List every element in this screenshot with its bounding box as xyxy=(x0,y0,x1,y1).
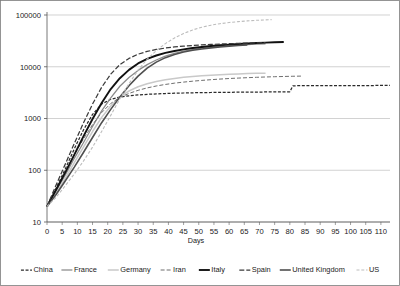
x-tick-label: 90 xyxy=(316,227,324,236)
x-tick-label: 55 xyxy=(210,227,218,236)
x-tick-label: 20 xyxy=(103,227,111,236)
legend-label: US xyxy=(369,265,379,274)
x-tick-label: 70 xyxy=(255,227,263,236)
legend-item-spain: Spain xyxy=(239,265,270,274)
x-axis-ticks-group: 0510152025303540455055606570758085909510… xyxy=(45,222,387,236)
legend-item-us: US xyxy=(356,265,379,274)
x-tick-label: 0 xyxy=(45,227,49,236)
y-axis-ticks-group: 10000010000100010010 xyxy=(16,11,47,227)
series-line-china xyxy=(47,85,390,206)
legend-label: China xyxy=(33,265,53,274)
x-tick-label: 40 xyxy=(164,227,172,236)
x-tick-label: 45 xyxy=(179,227,187,236)
series-line-us xyxy=(47,20,272,207)
x-tick-label: 60 xyxy=(225,227,233,236)
y-tick-label: 1000 xyxy=(24,114,41,123)
x-tick-label: 110 xyxy=(375,227,387,236)
x-tick-label: 30 xyxy=(134,227,142,236)
x-tick-label: 35 xyxy=(149,227,157,236)
legend-label: Germany xyxy=(120,265,151,274)
chart-container: 10000010000100010010 0510152025303540455… xyxy=(0,0,400,286)
x-tick-label: 25 xyxy=(119,227,127,236)
legend-label: United Kingdom xyxy=(292,265,345,274)
x-tick-label: 95 xyxy=(331,227,339,236)
series-line-united-kingdom xyxy=(47,45,247,206)
legend: ChinaFranceGermanyIranItalySpainUnited K… xyxy=(21,265,379,274)
x-tick-label: 10 xyxy=(73,227,81,236)
x-tick-label: 100 xyxy=(344,227,357,236)
series-line-germany xyxy=(47,73,266,206)
legend-item-germany: Germany xyxy=(108,265,151,274)
x-tick-label: 80 xyxy=(286,227,294,236)
x-tick-label: 105 xyxy=(359,227,372,236)
y-tick-label: 100000 xyxy=(16,11,41,20)
series-line-france xyxy=(47,44,266,207)
y-tick-label: 100 xyxy=(28,166,41,175)
x-axis-title: Days xyxy=(188,236,205,245)
y-tick-label: 10000 xyxy=(20,63,41,72)
series-line-iran xyxy=(47,76,302,206)
legend-item-france: France xyxy=(61,265,97,274)
legend-label: Iran xyxy=(173,265,186,274)
x-tick-label: 50 xyxy=(195,227,203,236)
legend-item-united-kingdom: United Kingdom xyxy=(280,265,345,274)
series-group xyxy=(47,20,390,207)
legend-label: Italy xyxy=(211,265,225,274)
x-tick-label: 5 xyxy=(60,227,64,236)
log-line-chart: 10000010000100010010 0510152025303540455… xyxy=(0,0,400,286)
legend-item-china: China xyxy=(21,265,54,274)
legend-label: Spain xyxy=(252,265,271,274)
legend-item-iran: Iran xyxy=(161,265,186,274)
legend-label: France xyxy=(74,265,97,274)
series-line-spain xyxy=(47,43,266,207)
legend-item-italy: Italy xyxy=(199,265,225,274)
x-tick-label: 15 xyxy=(88,227,96,236)
x-tick-label: 65 xyxy=(240,227,248,236)
x-tick-label: 85 xyxy=(301,227,309,236)
y-tick-label: 10 xyxy=(33,218,41,227)
x-tick-label: 75 xyxy=(270,227,278,236)
